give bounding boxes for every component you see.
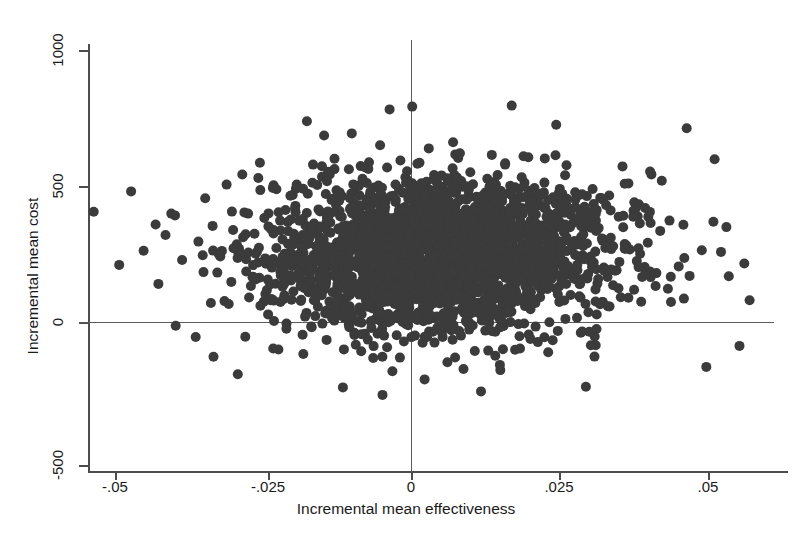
scatter-points-layer <box>0 0 812 552</box>
scatter-plot-figure: 1000 500 0 -500 -.05 -.025 0 .025 .05 In… <box>0 0 812 552</box>
x-axis-title: Incremental mean effectiveness <box>0 500 812 518</box>
y-axis-title: Incremental mean cost <box>24 198 42 355</box>
